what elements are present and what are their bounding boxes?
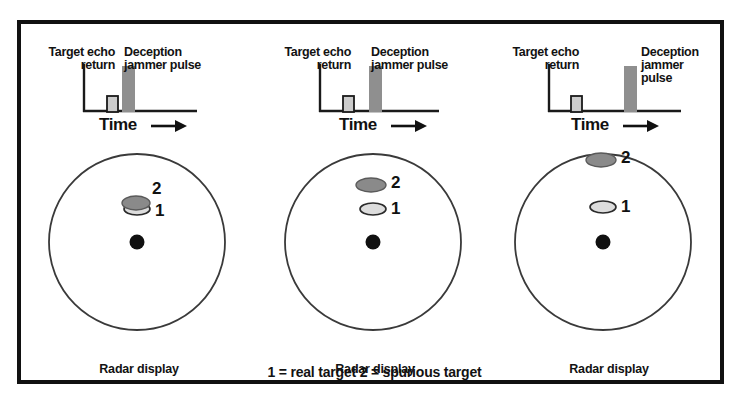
panel-walk-off: Target echo return Deception jammer puls…	[257, 24, 493, 388]
radar-display-2: 2 1	[257, 140, 493, 354]
radar-svg-2	[257, 140, 493, 350]
radar-svg-3	[491, 140, 727, 350]
figure-canvas: Target echo return Deception jammer puls…	[0, 0, 743, 400]
blip-label-2: 2	[152, 180, 161, 197]
bar-target-echo	[107, 96, 118, 112]
pulse-chart-2: Target echo return Deception jammer puls…	[257, 24, 493, 144]
blip-real-target	[590, 201, 616, 213]
label-target-echo-return: Target echo return	[273, 46, 351, 72]
blip-label-1: 1	[391, 200, 400, 217]
label-target-echo-return: Target echo return	[37, 46, 115, 72]
blip-spurious-target	[356, 178, 386, 192]
pulse-chart-1: Target echo return Deception jammer puls…	[21, 24, 257, 144]
time-arrow-icon	[389, 117, 429, 135]
label-time-axis: Time	[571, 115, 609, 135]
legend-caption: 1 = real target 2 = spurious target	[21, 364, 728, 380]
panel-capture: Target echo return Deception jammer puls…	[21, 24, 257, 388]
bar-target-echo	[571, 96, 582, 112]
bar-jammer-pulse	[122, 66, 135, 112]
radar-center-dot	[366, 235, 381, 250]
time-arrow-icon	[149, 117, 189, 135]
figure-frame: Target echo return Deception jammer puls…	[17, 20, 724, 384]
panel-separated: Target echo return Deception jammer puls…	[491, 24, 727, 388]
bar-jammer-pulse	[624, 66, 637, 112]
blip-label-2: 2	[621, 149, 630, 166]
radar-svg-1	[21, 140, 257, 350]
label-deception-jammer-pulse: Deception jammer pulse	[641, 46, 723, 85]
label-time-axis: Time	[99, 115, 137, 135]
pulse-chart-3: Target echo return Deception jammer puls…	[491, 24, 727, 144]
blip-label-1: 1	[621, 198, 630, 215]
time-arrow-icon	[621, 117, 661, 135]
bar-jammer-pulse	[369, 66, 382, 112]
radar-display-3: 2 1	[491, 140, 727, 354]
blip-real-target	[360, 203, 386, 215]
radar-center-dot	[130, 235, 145, 250]
radar-center-dot	[596, 235, 611, 250]
label-time-axis: Time	[339, 115, 377, 135]
pulse-chart-svg-1	[21, 24, 257, 144]
radar-display-1: 2 1	[21, 140, 257, 354]
blip-spurious-target	[586, 153, 616, 167]
blip-label-2: 2	[391, 174, 400, 191]
label-deception-jammer-pulse: Deception jammer pulse	[371, 46, 489, 72]
bar-target-echo	[343, 96, 354, 112]
blip-label-1: 1	[155, 202, 164, 219]
blip-spurious-target	[122, 196, 150, 210]
label-deception-jammer-pulse: Deception jammer pulse	[124, 46, 244, 72]
label-target-echo-return: Target echo return	[499, 46, 579, 72]
